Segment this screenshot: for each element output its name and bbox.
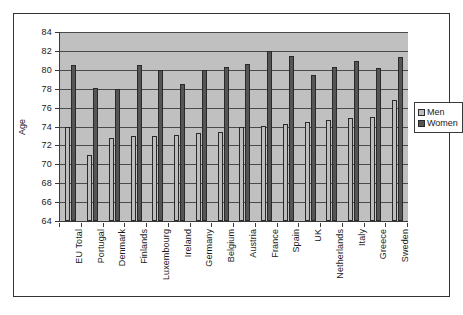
bar-women[interactable] [354,61,359,221]
bar-women[interactable] [398,57,403,221]
bar-group [82,32,104,221]
y-axis-tick-label: 76 [42,103,52,113]
bar-men[interactable] [196,133,201,221]
bar-men[interactable] [87,155,92,221]
x-axis-tick-label: Netherlands [335,229,345,279]
x-axis-tick-mark [168,223,169,227]
x-axis-tick-mark [81,223,82,227]
bar-women[interactable] [289,56,294,221]
bar-group [125,32,147,221]
x-axis-tick-mark [190,223,191,227]
y-axis-tick-label: 80 [42,65,52,75]
x-axis-tick-label: Italy [357,229,367,246]
chart-legend: Men Women [414,102,463,133]
bar-men[interactable] [218,132,223,221]
x-axis-tick-label: Belgium [226,229,236,262]
x-axis-tick-label: France [270,229,280,258]
x-axis-tick-label: EU Total [74,229,84,264]
bar-women[interactable] [93,88,98,221]
x-axis-tick-mark [385,223,386,227]
bar-women[interactable] [245,64,250,221]
x-axis-tick-mark [103,223,104,227]
x-axis-tick-label: Denmark [117,229,127,266]
x-axis-tick-mark [59,223,60,227]
legend-item-women[interactable]: Women [418,118,458,128]
bar-men[interactable] [174,135,179,221]
bar-men[interactable] [392,100,397,221]
bar-women[interactable] [202,70,207,221]
x-axis-tick-label: UK [313,229,323,242]
y-axis-tick-label: 66 [42,197,52,207]
bar-men[interactable] [283,124,288,221]
bar-women[interactable] [180,84,185,221]
legend-label-men: Men [427,107,445,117]
x-axis-tick-mark [407,223,408,227]
x-axis-tick-mark [255,223,256,227]
x-axis-tick-mark [146,223,147,227]
bar-group [343,32,365,221]
bar-group [104,32,126,221]
bar-women[interactable] [115,89,120,221]
x-axis-tick-label: Portugal [96,229,106,263]
bar-group [365,32,387,221]
y-axis-tick-label: 64 [42,216,52,226]
bar-group [60,32,82,221]
y-axis-tick-label: 78 [42,84,52,94]
bar-women[interactable] [267,51,272,221]
bar-men[interactable] [348,118,353,221]
bar-group [299,32,321,221]
bar-group [278,32,300,221]
y-axis-tick-label: 82 [42,46,52,56]
x-axis-tick-mark [124,223,125,227]
bar-men[interactable] [370,117,375,221]
y-axis-tick-label: 70 [42,159,52,169]
x-axis-tick-label: Spain [291,229,301,253]
bar-women[interactable] [376,68,381,221]
bar-group [147,32,169,221]
y-axis-tick-label: 72 [42,140,52,150]
legend-item-men[interactable]: Men [418,107,458,117]
bar-men[interactable] [152,136,157,221]
x-axis-tick-label: Germany [204,229,214,267]
x-axis-tick-label: Finlands [139,229,149,264]
bar-women[interactable] [311,75,316,221]
y-axis-tick-label: 74 [42,122,52,132]
bar-group [321,32,343,221]
y-axis: 6466687072747678808284 [14,32,59,222]
bar-group [169,32,191,221]
chart-frame: Age 6466687072747678808284 EU TotalPortu… [13,13,450,297]
bar-women[interactable] [137,65,142,221]
bar-men[interactable] [305,122,310,221]
bar-men[interactable] [261,126,266,221]
bar-group [256,32,278,221]
bar-men[interactable] [326,120,331,221]
bar-group [191,32,213,221]
x-axis-tick-label: Greece [378,229,388,259]
x-axis: EU TotalPortugalDenmarkFinlandsLuxembour… [59,223,408,295]
bar-group [234,32,256,221]
bar-group [212,32,234,221]
y-axis-tick-label: 84 [42,27,52,37]
x-axis-tick-mark [342,223,343,227]
legend-label-women: Women [427,118,458,128]
bar-women[interactable] [71,65,76,221]
legend-swatch-women-icon [418,120,425,127]
x-axis-tick-label: Austria [248,229,258,258]
bar-men[interactable] [65,127,70,222]
x-axis-tick-mark [277,223,278,227]
bar-group [386,32,408,221]
y-axis-tick-label: 68 [42,178,52,188]
bar-men[interactable] [239,127,244,222]
bar-women[interactable] [158,70,163,221]
bar-men[interactable] [131,136,136,221]
x-axis-tick-mark [320,223,321,227]
legend-swatch-men-icon [418,109,425,116]
x-axis-tick-mark [298,223,299,227]
bar-women[interactable] [224,67,229,221]
bar-men[interactable] [109,138,114,221]
x-axis-tick-mark [211,223,212,227]
x-axis-tick-mark [364,223,365,227]
x-axis-tick-mark [233,223,234,227]
x-axis-tick-label: Sweden [400,229,410,262]
bar-women[interactable] [332,67,337,221]
